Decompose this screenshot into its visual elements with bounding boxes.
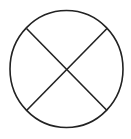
- crossed-circle-diagram: [0, 0, 131, 139]
